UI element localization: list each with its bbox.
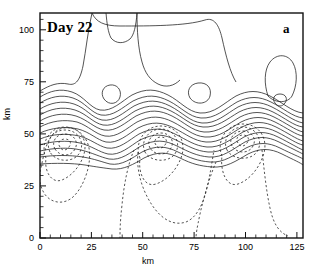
x-tick-label: 25 [86, 242, 96, 252]
y-tick-label: 75 [24, 77, 34, 87]
x-axis-title: km [142, 256, 154, 266]
plot-title: Day 22 [47, 19, 93, 36]
y-tick-label: 25 [24, 181, 34, 191]
plot-frame [40, 13, 303, 238]
x-tick-label: 50 [138, 242, 148, 252]
contour-plot-svg: 0 25 50 75 100 125 0 25 50 75 100 [0, 0, 317, 275]
y-tick-label: 100 [19, 25, 34, 35]
y-tick-label: 50 [24, 129, 34, 139]
x-tick-label: 125 [289, 242, 304, 252]
x-tick-label: 75 [189, 242, 199, 252]
panel-label: a [283, 21, 290, 37]
x-tick-label: 100 [238, 242, 253, 252]
y-axis-title: km [2, 108, 12, 120]
contour-figure-panel: 0 25 50 75 100 125 0 25 50 75 100 Day 22… [0, 0, 317, 275]
x-tick-label: 0 [37, 242, 42, 252]
y-tick-label: 0 [29, 233, 34, 243]
